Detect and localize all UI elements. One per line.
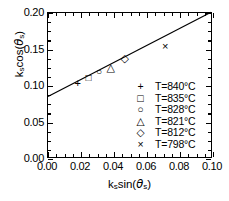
- minor-tick-top-2-3: [139, 13, 140, 16]
- legend-label-0: T=840°C: [155, 81, 195, 93]
- data-point-plus: +: [74, 78, 80, 89]
- data-point-triangle: △: [106, 62, 114, 73]
- legend-marker-0: +: [133, 81, 148, 93]
- minor-tick-top-0-2: [65, 13, 66, 16]
- minor-tick-lft-3-2: [48, 31, 51, 32]
- major-tick-rgt-3: [206, 50, 211, 51]
- minor-tick-lft-0-1: [48, 150, 51, 151]
- minor-tick-lft-1-2: [48, 104, 51, 105]
- y-axis-title-theta: θ: [12, 39, 26, 46]
- x-tick-label-5: 0.10: [202, 160, 222, 172]
- minor-tick-bot-3-3: [172, 154, 173, 157]
- data-point-square: □: [85, 73, 91, 83]
- legend-marker-5: ×: [133, 139, 148, 151]
- major-tick-lft-2: [48, 86, 53, 87]
- major-tick-bot-0: [48, 152, 49, 157]
- minor-tick-bot-0-2: [65, 154, 66, 157]
- y-axis-title-sub-s2: s: [17, 35, 26, 39]
- minor-tick-lft-2-3: [48, 59, 51, 60]
- minor-tick-bot-1-2: [98, 154, 99, 157]
- minor-tick-lft-0-2: [48, 141, 51, 142]
- minor-tick-top-3-1: [155, 13, 156, 16]
- minor-tick-bot-4-2: [197, 154, 198, 157]
- x-tick-label-1: 0.02: [70, 160, 90, 172]
- minor-tick-top-3-3: [172, 13, 173, 16]
- minor-tick-rgt-1-2: [208, 104, 211, 105]
- minor-tick-bot-4-1: [188, 154, 189, 157]
- minor-tick-lft-2-1: [48, 77, 51, 78]
- data-point-circle: ○: [96, 67, 102, 77]
- minor-tick-rgt-1-3: [208, 95, 211, 96]
- major-tick-rgt-1: [206, 123, 211, 124]
- data-point-diamond: ◇: [120, 53, 128, 64]
- major-tick-lft-3: [48, 50, 53, 51]
- minor-tick-bot-1-1: [89, 154, 90, 157]
- y-axis-title-k: k: [13, 71, 25, 77]
- x-axis-title: kssin(θs): [47, 177, 212, 191]
- minor-tick-bot-3-1: [155, 154, 156, 157]
- y-tick-label-2: 0.10: [24, 79, 44, 91]
- minor-tick-rgt-3-2: [208, 31, 211, 32]
- x-axis-title-fn: sin(: [118, 178, 137, 190]
- y-tick-label-1: 0.05: [24, 116, 44, 128]
- y-tick-label-4: 0.20: [24, 6, 44, 18]
- major-tick-lft-1: [48, 123, 53, 124]
- minor-tick-top-3-2: [164, 13, 165, 16]
- minor-tick-rgt-1-1: [208, 113, 211, 114]
- minor-tick-top-2-2: [131, 13, 132, 16]
- figure: 0.000.050.100.150.20 kscos(θs) kssin(θs)…: [0, 0, 229, 201]
- major-tick-lft-4: [48, 13, 53, 14]
- plot-area: +□○△◇× +T=840°C□T=835°C○T=828°C△T=821°C◇…: [47, 12, 212, 158]
- major-tick-bot-2: [114, 152, 115, 157]
- x-tick-label-0: 0.00: [37, 160, 57, 172]
- major-tick-top-3: [147, 13, 148, 18]
- major-tick-bot-5: [213, 152, 214, 157]
- minor-tick-top-4-1: [188, 13, 189, 16]
- legend: +T=840°C□T=835°C○T=828°C△T=821°C◇T=812°C…: [133, 81, 195, 151]
- minor-tick-lft-1-3: [48, 95, 51, 96]
- minor-tick-bot-1-3: [106, 154, 107, 157]
- minor-tick-top-2-1: [122, 13, 123, 16]
- minor-tick-rgt-2-3: [208, 59, 211, 60]
- minor-tick-lft-0-3: [48, 132, 51, 133]
- minor-tick-top-0-3: [73, 13, 74, 16]
- minor-tick-bot-2-2: [131, 154, 132, 157]
- minor-tick-top-1-1: [89, 13, 90, 16]
- y-axis-title-sub-s: s: [17, 67, 26, 71]
- minor-tick-bot-2-1: [122, 154, 123, 157]
- x-tick-label-2: 0.04: [103, 160, 123, 172]
- minor-tick-lft-3-1: [48, 40, 51, 41]
- major-tick-rgt-4: [206, 13, 211, 14]
- minor-tick-rgt-3-1: [208, 40, 211, 41]
- y-axis-title-fn: cos(: [13, 46, 25, 68]
- major-tick-rgt-2: [206, 86, 211, 87]
- minor-tick-top-0-1: [56, 13, 57, 16]
- y-tick-label-3: 0.15: [24, 43, 44, 55]
- minor-tick-top-4-2: [197, 13, 198, 16]
- major-tick-bot-1: [81, 152, 82, 157]
- minor-tick-bot-3-2: [164, 154, 165, 157]
- y-axis-title: kscos(θs): [12, 0, 26, 114]
- minor-tick-rgt-3-3: [208, 22, 211, 23]
- major-tick-top-5: [213, 13, 214, 18]
- minor-tick-lft-2-2: [48, 68, 51, 69]
- minor-tick-bot-2-3: [139, 154, 140, 157]
- minor-tick-bot-0-3: [73, 154, 74, 157]
- minor-tick-bot-0-1: [56, 154, 57, 157]
- x-axis-title-close: ): [147, 178, 151, 190]
- minor-tick-lft-3-3: [48, 22, 51, 23]
- x-tick-label-4: 0.08: [169, 160, 189, 172]
- minor-tick-top-1-3: [106, 13, 107, 16]
- major-tick-top-1: [81, 13, 82, 18]
- minor-tick-top-1-2: [98, 13, 99, 16]
- minor-tick-rgt-0-3: [208, 132, 211, 133]
- legend-item-0: +T=840°C: [133, 81, 195, 93]
- major-tick-bot-3: [147, 152, 148, 157]
- minor-tick-rgt-0-1: [208, 150, 211, 151]
- minor-tick-rgt-2-2: [208, 68, 211, 69]
- major-tick-bot-4: [180, 152, 181, 157]
- minor-tick-rgt-0-2: [208, 141, 211, 142]
- data-point-cross: ×: [162, 40, 168, 51]
- minor-tick-bot-4-3: [205, 154, 206, 157]
- x-tick-label-3: 0.06: [136, 160, 156, 172]
